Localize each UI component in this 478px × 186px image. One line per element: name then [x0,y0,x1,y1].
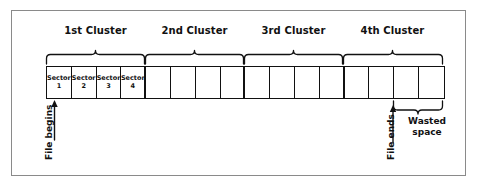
sector-cell-8 [221,67,246,98]
sector-cell-4-number: 4 [131,82,136,91]
sector-cell-13 [345,67,370,98]
cluster-label-4: 4th Cluster [343,24,442,38]
sector-cell-5 [146,67,171,98]
sector-cell-3-name: Sector [97,74,121,82]
sector-cell-4-name: Sector [121,74,145,82]
sector-cell-11 [295,67,320,98]
cluster-label-3: 3rd Cluster [244,24,343,38]
wasted-space-label: Wasted space [398,116,456,138]
sector-strip: Sector 1 Sector 2 Sector 3 Sector 4 [46,66,445,99]
file-ends-label: File ends [386,114,396,160]
sector-cell-3: Sector 3 [97,67,122,98]
sector-cell-1-number: 1 [57,82,62,91]
sector-cell-2-name: Sector [72,74,96,82]
sector-cell-1: Sector 1 [47,67,72,98]
cluster-label-1: 1st Cluster [46,24,145,38]
sector-cell-15 [394,67,419,98]
sector-cell-7 [196,67,221,98]
sector-cell-1-name: Sector [47,74,71,82]
sector-cell-6 [171,67,196,98]
figure-container: 1st Cluster 2nd Cluster 3rd Cluster 4th … [0,0,478,186]
sector-cell-14 [369,67,394,98]
cluster-label-2: 2nd Cluster [145,24,244,38]
wasted-space-line-2: space [398,127,456,138]
sector-cell-9 [245,67,270,98]
sector-cell-12 [320,67,345,98]
sector-cell-4: Sector 4 [121,67,146,98]
sector-cell-10 [270,67,295,98]
sector-cell-2: Sector 2 [72,67,97,98]
sector-cell-2-number: 2 [81,82,86,91]
sector-cell-3-number: 3 [106,82,111,91]
wasted-space-line-1: Wasted [398,116,456,127]
file-begins-label: File begins [44,105,54,160]
sector-cell-16 [419,67,444,98]
